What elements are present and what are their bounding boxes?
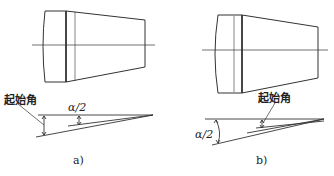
figure-b-start-angle-label: 起始角	[258, 93, 291, 104]
figure-b-half-angle-label: α/2	[195, 129, 213, 140]
diagram-canvas	[0, 0, 334, 176]
figure-a-inner-line	[68, 115, 153, 126]
figure-b-caption: b)	[256, 155, 267, 166]
figure-a-half-angle-label: α/2	[68, 102, 86, 113]
figure-b-left-section	[215, 15, 242, 93]
figure-b-angle-diagram	[205, 103, 324, 145]
figure-a-part	[32, 11, 155, 82]
figure-a-caption: a)	[73, 155, 84, 166]
figure-b-tapered-body	[242, 15, 318, 93]
figure-a-left-section	[43, 11, 66, 82]
figure-a-lower-line	[36, 115, 153, 137]
figure-a-start-angle-label: 起始角	[4, 95, 37, 106]
figure-a-tapered-body	[66, 11, 145, 82]
figure-b-part	[202, 15, 328, 93]
